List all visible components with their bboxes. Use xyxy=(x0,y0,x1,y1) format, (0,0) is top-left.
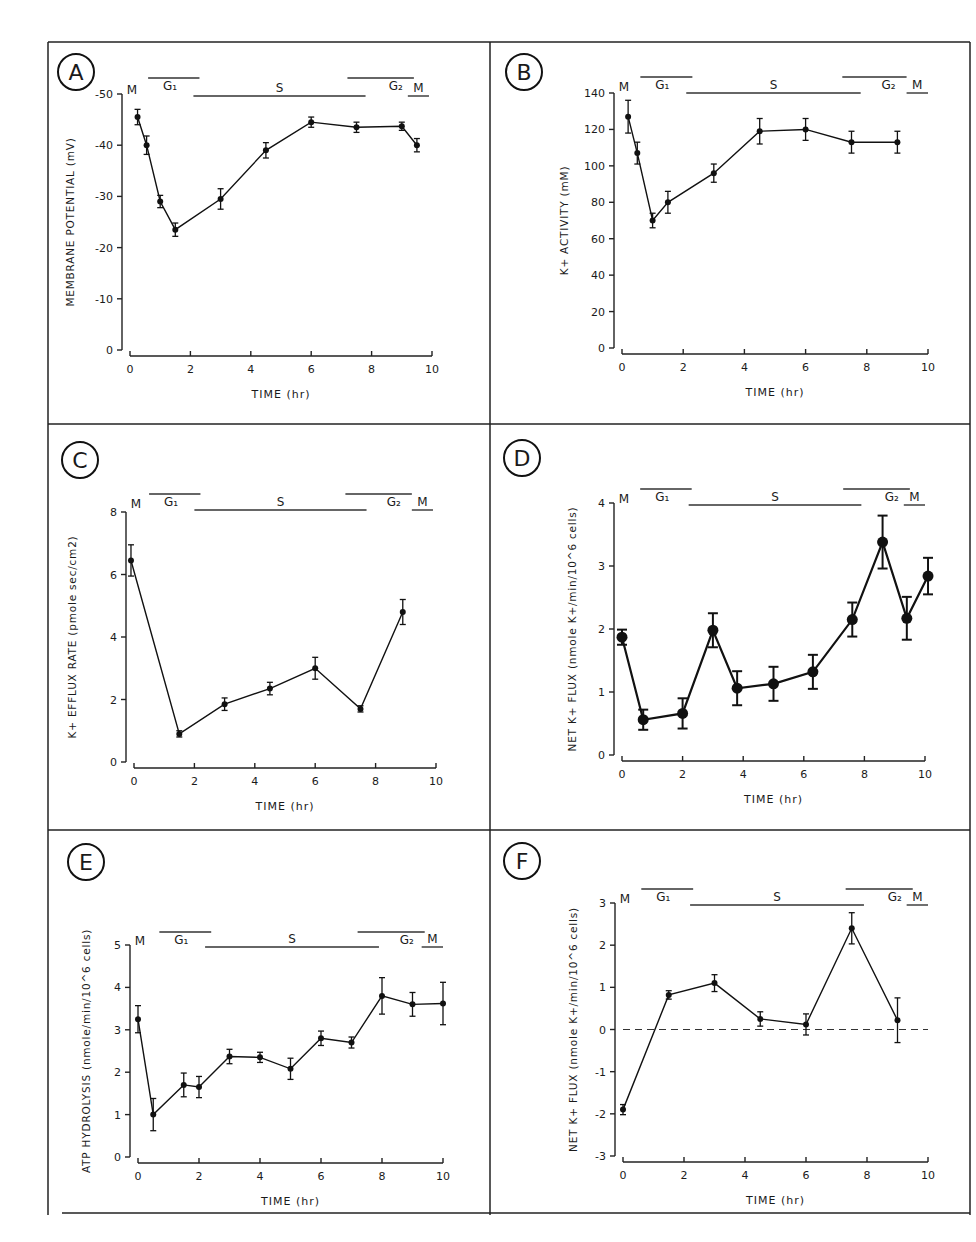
y-axis-label: K+ ACTIVITY (mM) xyxy=(558,166,570,276)
phase-label-m: M xyxy=(909,490,919,504)
x-tick-label: 4 xyxy=(740,768,747,781)
phase-label-s: S xyxy=(770,78,778,92)
data-point xyxy=(135,1016,141,1022)
y-tick-label: 80 xyxy=(591,196,605,209)
x-axis-label: TIME (hr) xyxy=(745,386,805,399)
x-axis-label: TIME (hr) xyxy=(745,1194,805,1207)
panel-label-badge: E xyxy=(68,844,104,880)
y-axis-label: ATP HYDROLYSIS (nmole/min/10^6 cells) xyxy=(80,929,92,1173)
x-axis: 0246810 xyxy=(127,351,440,376)
data-series xyxy=(135,978,446,1131)
y-tick-label: 0 xyxy=(598,749,605,762)
x-axis: 0246810 xyxy=(619,756,933,781)
data-point xyxy=(803,1021,809,1027)
x-tick-label: 0 xyxy=(135,1170,142,1183)
y-tick-label: 3 xyxy=(599,897,606,910)
data-point xyxy=(665,199,671,205)
y-tick-label: 0 xyxy=(106,344,113,357)
x-tick-label: 10 xyxy=(429,775,443,788)
x-tick-label: 8 xyxy=(372,775,379,788)
data-point xyxy=(196,1084,202,1090)
data-point xyxy=(807,666,818,677)
y-tick-label: 100 xyxy=(584,160,605,173)
phase-label-g1: G₁ xyxy=(655,78,669,92)
data-point xyxy=(400,609,406,615)
phase-label-m: M xyxy=(131,497,141,511)
phase-label-g1: G₁ xyxy=(164,495,178,509)
phase-label-m: M xyxy=(912,890,922,904)
y-tick-label: 1 xyxy=(599,981,606,994)
data-point xyxy=(650,218,656,224)
y-tick-label: 4 xyxy=(110,631,117,644)
data-point xyxy=(847,614,858,625)
y-tick-label: 120 xyxy=(584,123,605,136)
panel-f: F-3-2-101230246810TIME (hr)NET K+ FLUX (… xyxy=(504,843,935,1207)
y-tick-label: 140 xyxy=(584,87,605,100)
y-axis: 020406080100120140 xyxy=(584,87,614,355)
phase-label-m: M xyxy=(619,492,629,506)
cell-cycle-phases: MG₁SG₂M xyxy=(131,494,433,511)
x-tick-label: 10 xyxy=(921,1169,935,1182)
x-tick-label: 0 xyxy=(127,363,134,376)
y-tick-label: 3 xyxy=(114,1024,121,1037)
data-point xyxy=(849,925,855,931)
x-tick-label: 10 xyxy=(425,363,439,376)
x-tick-label: 0 xyxy=(620,1169,627,1182)
y-tick-label: 0 xyxy=(599,1024,606,1037)
y-tick-label: 0 xyxy=(598,342,605,355)
data-point xyxy=(399,123,405,129)
y-tick-label: 2 xyxy=(110,694,117,707)
data-point xyxy=(625,114,631,120)
y-tick-label: 40 xyxy=(591,269,605,282)
x-tick-label: 8 xyxy=(861,768,868,781)
phase-label-m: M xyxy=(417,495,427,509)
cell-cycle-phases: MG₁SG₂M xyxy=(619,77,928,94)
panel-label-badge: C xyxy=(62,442,98,478)
phase-label-g2: G₂ xyxy=(387,495,401,509)
data-point xyxy=(318,1035,324,1041)
data-point xyxy=(707,625,718,636)
x-tick-label: 6 xyxy=(308,363,315,376)
y-axis: 0-10-20-30-40-50 xyxy=(95,88,122,357)
y-tick-label: 0 xyxy=(114,1151,121,1164)
panel-label-badge: F xyxy=(504,843,540,879)
x-tick-label: 2 xyxy=(191,775,198,788)
x-tick-label: 4 xyxy=(741,361,748,374)
x-tick-label: 0 xyxy=(619,768,626,781)
y-tick-label: 20 xyxy=(591,306,605,319)
x-axis: 0246810 xyxy=(620,1157,936,1182)
y-tick-label: 1 xyxy=(598,686,605,699)
data-point xyxy=(877,537,888,548)
data-point xyxy=(288,1066,294,1072)
y-tick-label: 60 xyxy=(591,233,605,246)
data-point xyxy=(227,1054,233,1060)
y-tick-label: -2 xyxy=(595,1108,606,1121)
y-axis: 012345 xyxy=(114,939,130,1164)
data-point xyxy=(666,992,672,998)
data-point xyxy=(267,686,273,692)
x-axis-label: TIME (hr) xyxy=(743,793,803,806)
panel-label-badge: D xyxy=(504,440,540,476)
data-series xyxy=(617,516,934,730)
y-tick-label: 6 xyxy=(110,569,117,582)
panel-c: C024680246810TIME (hr)K+ EFFLUX RATE (pm… xyxy=(62,442,443,813)
phase-label-s: S xyxy=(771,490,779,504)
phase-label-g1: G₁ xyxy=(174,933,188,947)
x-tick-label: 6 xyxy=(802,361,809,374)
data-point xyxy=(218,196,224,202)
x-axis-label: TIME (hr) xyxy=(260,1195,320,1208)
phase-label-s: S xyxy=(773,890,781,904)
panel-label-badge: B xyxy=(506,54,542,90)
data-point xyxy=(712,980,718,986)
y-tick-label: -3 xyxy=(595,1150,606,1163)
data-point xyxy=(894,139,900,145)
data-point xyxy=(172,227,178,233)
panel-d: D012340246810TIME (hr)NET K+ FLUX (nmole… xyxy=(504,440,934,806)
data-point xyxy=(757,128,763,134)
x-tick-label: 4 xyxy=(251,775,258,788)
x-tick-label: 2 xyxy=(681,1169,688,1182)
y-axis: 02468 xyxy=(110,506,126,769)
y-tick-label: 3 xyxy=(598,560,605,573)
y-axis-label: MEMBRANE POTENTIAL (mV) xyxy=(64,137,76,306)
phase-label-g2: G₂ xyxy=(885,490,899,504)
